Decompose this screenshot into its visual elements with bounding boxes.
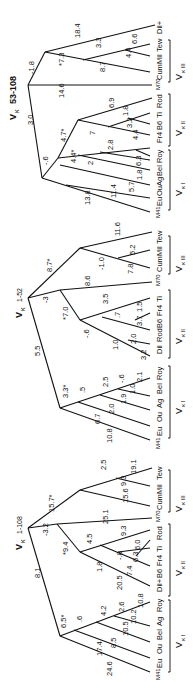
taxa-labels: Tew Mil Cum M70 Ti Fr4 B6 Rod Dil Roy Be… [155,230,164,449]
taxon-label: Tew [155,466,164,480]
taxon-label: Cum [155,494,164,510]
svg-text:V: V [174,570,184,576]
branch-length: 4.4 [131,130,140,140]
taxa-labels: Dil+ Tew Mil Cum M70 Rod Ti B6 Fr4 Roy B… [155,20,164,218]
taxon-label: Rod [155,328,164,342]
taxon-label: Rod [155,526,164,540]
branch-length: 2.6 [117,602,126,612]
taxon-label: Ou [155,186,164,196]
branch-length: 2.0 [107,404,116,414]
branch-length: 5.2 [128,245,137,255]
branch-length: 18.4 [73,23,82,38]
branch-length: 2.1 [135,372,144,382]
taxon-label: M70 [155,78,161,90]
taxon-label: Ti [155,112,164,118]
branch-length: *7.0 [61,307,70,320]
svg-text:κ III: κ III [180,495,186,505]
branch-length: 1.8 [95,562,104,572]
taxon-label: Fr4 [155,555,164,566]
branch-length: 1.5 [135,302,144,312]
branch-length: -3 [41,296,50,303]
taxon-label: Eu [155,659,164,668]
taxon-label: M41 [155,206,161,218]
branch-length: 20.5 [115,575,124,590]
branch-length: 4.4 [124,48,133,58]
taxon-label: Ou [155,412,164,422]
taxon-label: Mil [155,246,164,256]
taxon-label: Dil+ [155,578,164,592]
branch-length: 2.8 [106,140,115,150]
phylogenetic-trees-figure: V κ 53-108 - [0,0,193,688]
taxon-label: Mil [155,54,164,64]
branch-length: 3.0 [26,115,35,125]
branch-length: 8.7* [45,259,54,272]
taxon-label: Cum [155,256,164,272]
branch-length: 1.9 [119,394,128,404]
branch-length: 2.5 [101,377,110,387]
branch-length: 8.5 [109,638,118,648]
branch-length: 3.7 [135,316,144,326]
taxon-label: Dil+ [155,20,164,34]
branch-length: 6.6 [130,34,139,44]
branch-length: *9.4 [61,542,70,555]
branch-length: 15.7* [47,494,56,512]
title-id: 1-108 [16,516,23,534]
svg-text:κ III: κ III [180,255,186,265]
taxon-label: Bel [155,165,164,176]
taxon-label: Eu [155,197,164,206]
group-label-vk-iii: V κ III [174,63,186,80]
tree-vk-1-108: V κ 1-108 15.7* 2.5 19.1 [14,459,186,680]
branch-length: -3.2 [41,523,50,536]
branch-length: 19.1 [129,459,138,474]
title-sub: κ [13,109,20,113]
group-label-vk-i: V κ I [174,634,186,648]
branch-length: 6.7 [93,414,102,424]
branch-length: 3.2 [125,118,134,128]
branch-length: 10.8 [105,428,114,443]
group-brackets: V κ III V κ II V κ I [168,236,186,438]
taxon-label: B6 [155,319,164,328]
branch-length: .5 [78,387,87,393]
group-label-vk-iii: V κ III [174,255,186,272]
branch-length: 13.8 [83,190,92,205]
branch-length: 8.1 [33,568,42,578]
title-sub: κ [19,539,26,543]
branch-length: 1.8 [135,170,144,180]
branch-length: 3.2 [139,350,148,360]
title-id: 53-108 [8,76,18,104]
branch-length: .7 [113,312,122,318]
branch-length: 1.0 [128,384,137,394]
branch-length: 1.8 [121,106,130,116]
branch-length: 9.3 [119,526,128,536]
tree-vk-1-52: V κ 1-52 8.7* 11.6 -1.0 [14,222,186,449]
branch-length: 6.3 [134,156,143,166]
tree-vk-53-108: V κ 53-108 - [8,20,186,218]
title-id: 1-52 [16,288,23,302]
branch-length: .6 [75,616,84,622]
group-label-vk-i: V κ I [174,400,186,414]
branch-length: -1.0 [97,257,106,270]
branch-length: 1.0 [111,340,120,350]
taxon-label: Ag [155,617,164,626]
branch-length: *7.3 [57,53,66,66]
branch-length: 8.6 [83,276,92,286]
taxon-label: M41 [155,668,161,680]
branch-length: 10.5 [121,621,130,636]
branch-length: 8.7 [98,62,107,72]
branch-length: 2.5 [99,460,108,470]
taxon-label: Roy [155,598,164,612]
branch-length: 3.3* [61,385,70,398]
title-sub: κ [19,307,26,311]
svg-text:κ I: κ I [180,400,186,407]
taxon-label: Cum [155,64,164,80]
svg-text:κ II: κ II [180,329,186,337]
taxon-label: Tew [155,230,164,244]
group-label-vk-ii: V κ II [174,561,186,576]
tree-title: V κ 1-52 [14,288,26,318]
branch-length: 6.3 [131,552,140,562]
tree-title: V κ 1-108 [14,516,26,550]
branch-length: 2 [86,161,95,165]
tree-title: V κ 53-108 [8,76,20,120]
branch-length: 7.4 [125,566,134,576]
taxon-label: Ti [155,296,164,302]
